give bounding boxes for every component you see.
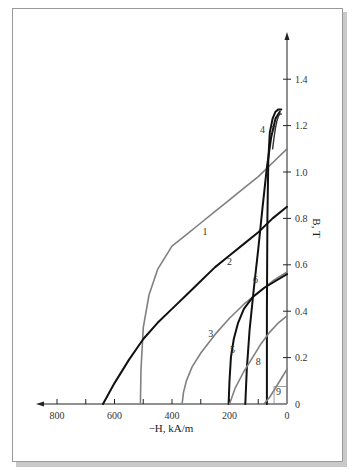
curve-label-5: 5: [230, 344, 235, 355]
x-axis-arrow-icon: [36, 402, 44, 407]
y-tick-label: 0: [295, 399, 300, 410]
x-tick-label: 400: [165, 410, 180, 421]
x-tick-label: 0: [285, 410, 290, 421]
x-tick-label: 800: [50, 410, 65, 421]
curve-label-8: 8: [256, 356, 261, 367]
curve-label-9: 9: [276, 386, 281, 397]
y-tick-label: 1.4: [295, 74, 308, 85]
y-tick-label: 1.0: [295, 167, 308, 178]
x-tick-label: 200: [222, 410, 237, 421]
curve-label-7: 7: [271, 124, 276, 135]
demagnetization-chart: 020040060080000.20.40.60.81.01.21.4 1234…: [0, 0, 353, 474]
x-tick-label: 600: [107, 410, 122, 421]
curve-label-6: 6: [253, 274, 258, 285]
y-tick-label: 0.8: [295, 213, 308, 224]
y-axis-title: B, T: [311, 218, 323, 238]
y-tick-label: 0.4: [295, 306, 308, 317]
curve-label-3: 3: [208, 328, 213, 339]
y-axis-arrow-icon: [285, 32, 290, 40]
x-axis-title: −H, kA/m: [149, 422, 194, 434]
y-tick-label: 1.2: [295, 120, 308, 131]
curve-label-1: 1: [203, 226, 208, 237]
curve-label-4: 4: [260, 124, 265, 135]
curve-labels: 123456789: [203, 124, 288, 404]
curve-label-2: 2: [227, 256, 232, 267]
y-tick-label: 0.2: [295, 352, 308, 363]
y-tick-label: 0.6: [295, 259, 308, 270]
